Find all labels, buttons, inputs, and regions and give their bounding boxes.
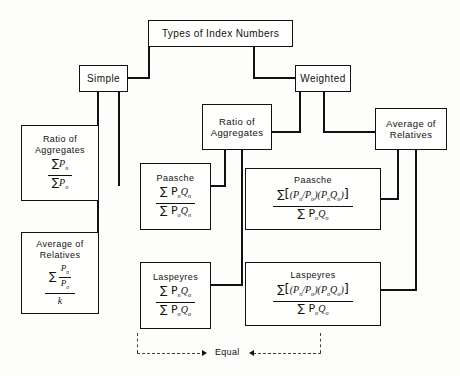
bracket-close-icon: ]: [344, 281, 349, 296]
box-simple-ratio-of-aggregates-formula: Ratio of Aggregates ∑Pn ∑Po: [21, 125, 99, 201]
connector-wratio-stem-left: [224, 150, 226, 186]
connector-weighted-stem-left: [299, 92, 301, 132]
sub-n: n: [299, 195, 302, 202]
connector-title-to-weighted-vertical: [253, 47, 255, 78]
sub-o: o: [188, 310, 191, 317]
box-weighted-ratio-laspeyres: Laspeyres ∑ PnQo ∑ PoQo: [140, 262, 211, 329]
bracket-open-icon: [: [285, 281, 290, 296]
equal-dash-left-horizontal: [137, 353, 205, 354]
formula-numerator: ∑ PnQn: [156, 186, 195, 204]
box-title: Types of Index Numbers: [162, 28, 279, 39]
box-weighted-average-paasche: Paasche ∑[(Pn/Po)(PnQn)] ∑ PnQn: [245, 168, 381, 230]
var-q: Q: [181, 304, 188, 315]
index-numbers-classification-diagram: Equal Types of Index Numbers Simple Weig…: [0, 0, 460, 376]
connector-weighted-to-average-relatives: [323, 131, 375, 133]
formula-laspeyres-aggregates: ∑ PnQo ∑ PoQo: [156, 285, 195, 320]
sub-o: o: [311, 290, 314, 297]
formula-ratio-of-aggregates-simple: ∑Pn ∑Po: [48, 158, 73, 193]
formula-denominator: ∑ PoQo: [156, 303, 195, 320]
connector-wratio-to-laspeyres: [211, 284, 243, 286]
sigma-icon: ∑ P: [160, 284, 178, 297]
box-weighted: Weighted: [295, 65, 351, 92]
connector-title-to-weighted-horizontal: [253, 77, 295, 79]
formula-numerator: ∑Pn: [48, 158, 73, 176]
formula-paasche-aggregates: ∑ PnQn ∑ PoQn: [156, 186, 195, 221]
equal-arrow-right: [249, 350, 254, 356]
var-q: Q: [181, 285, 188, 296]
formula-denominator: ∑ PoQo: [294, 302, 333, 319]
equal-label: Equal: [212, 347, 243, 357]
sub-o: o: [188, 291, 191, 298]
connector-waverage-to-paasche: [381, 198, 399, 200]
box-weighted-ratio-of-aggregates: Ratio of Aggregates: [202, 104, 272, 150]
equal-dash-right-horizontal: [253, 353, 321, 354]
sub-n: n: [337, 195, 340, 202]
bracket-open-icon: [: [285, 186, 290, 201]
var-q: Q: [181, 205, 188, 216]
connector-wratio-to-paasche: [211, 185, 226, 187]
sigma-icon: ∑ P: [160, 303, 178, 316]
sigma-icon: ∑ P: [298, 302, 316, 315]
connector-waverage-stem-left: [397, 150, 399, 199]
box-title: Laspeyres: [290, 270, 335, 281]
formula-laspeyres-relatives: ∑[(Pn/Po)(PoQo)] ∑ PoQo: [273, 283, 353, 319]
formula-denominator: ∑Po: [48, 176, 73, 193]
connector-waverage-to-laspeyres: [381, 289, 417, 291]
sub-n: n: [65, 164, 68, 171]
formula-numerator: ∑[(Pn/Po)(PnQn)]: [273, 188, 353, 207]
connector-weighted-stem-right: [323, 92, 325, 132]
sigma-icon: ∑: [49, 270, 56, 283]
inner-denominator: Po: [59, 278, 71, 292]
sub-o: o: [337, 290, 340, 297]
formula-denominator: k: [54, 294, 66, 307]
box-title: Simple: [87, 73, 120, 84]
sigma-icon: ∑: [277, 283, 284, 296]
connector-title-to-simple-horizontal: [128, 77, 150, 79]
var-q: Q: [181, 186, 188, 197]
sigma-icon: ∑: [277, 188, 284, 201]
sub-n: n: [188, 211, 191, 218]
box-weighted-average-laspeyres: Laspeyres ∑[(Pn/Po)(PoQo)] ∑ PoQo: [245, 262, 381, 326]
sigma-icon: ∑: [52, 157, 59, 170]
box-title: Paasche: [157, 173, 195, 184]
box-title: Weighted: [300, 73, 345, 84]
connector-weighted-to-ratio-aggregates: [272, 131, 301, 133]
box-title: Paasche: [294, 175, 332, 186]
formula-numerator: ∑ PnPo: [45, 263, 75, 294]
equal-arrow-left: [202, 350, 207, 356]
formula-denominator: ∑ PoQn: [156, 204, 195, 221]
sub-n: n: [325, 214, 328, 221]
formula-numerator: ∑ PnQo: [156, 285, 195, 303]
formula-denominator: ∑ PnQn: [294, 207, 333, 224]
box-types-of-index-numbers: Types of Index Numbers: [148, 20, 293, 47]
box-title: Average of Relatives: [386, 118, 436, 140]
box-weighted-ratio-paasche: Paasche ∑ PnQn ∑ PoQn: [140, 163, 211, 230]
box-simple: Simple: [79, 65, 128, 92]
sigma-icon: ∑ P: [298, 207, 316, 220]
sub-n: n: [66, 269, 69, 275]
inner-fraction: PnPo: [59, 263, 71, 292]
sigma-icon: ∑ P: [160, 185, 178, 198]
sub-n: n: [188, 192, 191, 199]
connector-waverage-stem-right: [415, 150, 417, 290]
sub-o: o: [65, 183, 68, 190]
sigma-icon: ∑: [52, 176, 59, 189]
equal-dash-right-vertical: [320, 333, 321, 353]
formula-paasche-relatives: ∑[(Pn/Po)(PnQn)] ∑ PnQn: [273, 188, 353, 224]
box-title: Ratio of Aggregates: [35, 134, 85, 156]
formula-numerator: ∑[(Pn/Po)(PoQo)]: [273, 283, 353, 302]
bracket-close-icon: ]: [344, 186, 349, 201]
connector-simple-stem-right: [118, 92, 120, 186]
connector-title-to-simple-vertical: [148, 47, 150, 78]
box-title: Ratio of Aggregates: [211, 116, 264, 138]
sub-o: o: [325, 309, 328, 316]
box-title: Laspeyres: [153, 272, 198, 283]
formula-average-of-relatives-simple: ∑ PnPo k: [45, 263, 75, 307]
box-simple-average-of-relatives-formula: Average of Relatives ∑ PnPo k: [21, 232, 99, 314]
box-weighted-average-of-relatives: Average of Relatives: [375, 108, 447, 150]
connector-wratio-stem-right: [241, 150, 243, 285]
inner-numerator: Pn: [59, 263, 71, 278]
sub-o: o: [66, 284, 69, 290]
sigma-icon: ∑ P: [160, 204, 178, 217]
sub-n: n: [299, 290, 302, 297]
